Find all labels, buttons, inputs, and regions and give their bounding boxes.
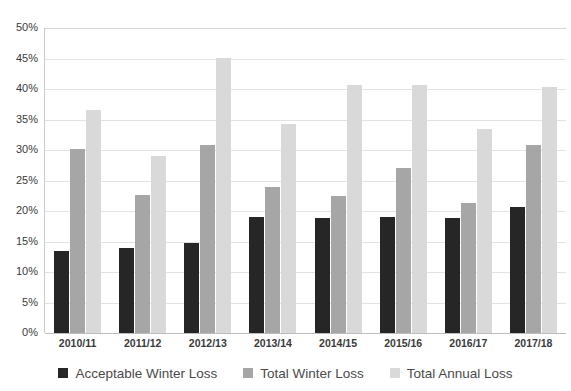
gridline-0 xyxy=(45,333,566,334)
bar-group xyxy=(501,28,566,333)
bar xyxy=(461,203,476,333)
legend-swatch-icon xyxy=(243,368,253,378)
x-tick-label: 2014/15 xyxy=(306,337,370,349)
bar-chart: 50%45%40%35%30%25%20%15%10%5%0% 2010/112… xyxy=(0,0,571,391)
legend-label: Total Annual Loss xyxy=(407,366,513,381)
x-tick-label: 2015/16 xyxy=(371,337,435,349)
legend-label: Acceptable Winter Loss xyxy=(75,366,217,381)
legend-item[interactable]: Total Winter Loss xyxy=(243,366,364,381)
x-tick-label: 2016/17 xyxy=(436,337,500,349)
bar xyxy=(477,129,492,333)
bar-group xyxy=(436,28,501,333)
bar xyxy=(135,195,150,333)
bar-group xyxy=(306,28,371,333)
y-tick-label: 20% xyxy=(2,204,38,216)
bar-group xyxy=(45,28,110,333)
x-tick-label: 2012/13 xyxy=(176,337,240,349)
legend-item[interactable]: Total Annual Loss xyxy=(390,366,513,381)
bar xyxy=(216,58,231,333)
x-axis: 2010/112011/122012/132013/142014/152015/… xyxy=(45,337,565,353)
bar-group xyxy=(110,28,175,333)
bar xyxy=(331,196,346,333)
chart-legend: Acceptable Winter LossTotal Winter LossT… xyxy=(0,362,571,384)
legend-swatch-icon xyxy=(390,368,400,378)
y-tick-label: 40% xyxy=(2,82,38,94)
bars-layer xyxy=(45,28,565,333)
y-tick-label: 50% xyxy=(2,21,38,33)
bar xyxy=(86,110,101,333)
bar xyxy=(200,145,215,333)
bar xyxy=(412,85,427,333)
y-tick-label: 10% xyxy=(2,265,38,277)
legend-label: Total Winter Loss xyxy=(260,366,364,381)
bar xyxy=(249,217,264,334)
y-tick-label: 0% xyxy=(2,326,38,338)
legend-item[interactable]: Acceptable Winter Loss xyxy=(58,366,217,381)
bar-group xyxy=(175,28,240,333)
bar xyxy=(315,218,330,333)
bar xyxy=(184,243,199,333)
bar xyxy=(445,218,460,333)
bar xyxy=(70,149,85,333)
bar-group xyxy=(371,28,436,333)
y-tick-label: 30% xyxy=(2,143,38,155)
bar xyxy=(151,156,166,333)
bar xyxy=(119,248,134,333)
bar xyxy=(347,85,362,333)
bar xyxy=(281,124,296,333)
x-tick-label: 2011/12 xyxy=(111,337,175,349)
legend-swatch-icon xyxy=(58,368,68,378)
x-tick-label: 2017/18 xyxy=(501,337,565,349)
bar xyxy=(526,145,541,333)
bar-group xyxy=(240,28,305,333)
bar xyxy=(542,87,557,333)
bar xyxy=(396,168,411,333)
y-tick-label: 25% xyxy=(2,174,38,186)
x-tick-label: 2013/14 xyxy=(241,337,305,349)
bar xyxy=(380,217,395,334)
bar xyxy=(510,207,525,333)
bar xyxy=(265,187,280,333)
bar xyxy=(54,251,69,333)
x-tick-label: 2010/11 xyxy=(46,337,110,349)
y-tick-label: 5% xyxy=(2,296,38,308)
y-tick-label: 45% xyxy=(2,52,38,64)
y-tick-label: 35% xyxy=(2,113,38,125)
y-tick-label: 15% xyxy=(2,235,38,247)
